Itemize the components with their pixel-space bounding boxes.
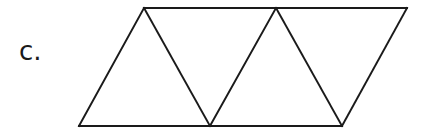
diagonal-5	[342, 8, 407, 126]
diagonal-1	[79, 8, 144, 126]
triangle-net-figure	[0, 0, 446, 130]
figure-panel: c.	[0, 0, 446, 130]
diagonal-3	[210, 8, 276, 126]
diagonal-2	[144, 8, 210, 126]
diagonal-4	[276, 8, 342, 126]
